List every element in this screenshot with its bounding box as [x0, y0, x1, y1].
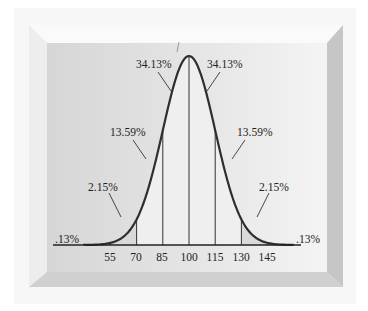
tick-70: 70: [130, 251, 142, 263]
label-tail-right: .13%: [296, 233, 320, 245]
frame-bottom: [29, 272, 343, 287]
normal-distribution-figure: 34.13% 34.13% 13.59% 13.59% 2.15% 2.15% …: [0, 0, 368, 311]
label-13-right: 13.59%: [237, 126, 273, 138]
label-13-left: 13.59%: [110, 126, 146, 138]
tick-115: 115: [207, 251, 224, 263]
frame-top: [29, 25, 343, 43]
frame-right: [327, 25, 343, 287]
tick-100: 100: [180, 251, 198, 263]
tick-130: 130: [232, 251, 250, 263]
label-tail-left: .13%: [55, 233, 79, 245]
tick-85: 85: [156, 251, 168, 263]
frame-left: [29, 25, 47, 287]
label-34-left: 34.13%: [136, 58, 172, 70]
label-34-right: 34.13%: [207, 58, 243, 70]
label-2-right: 2.15%: [259, 181, 289, 193]
tick-55: 55: [104, 251, 116, 263]
label-2-left: 2.15%: [88, 181, 118, 193]
tick-145: 145: [258, 251, 276, 263]
